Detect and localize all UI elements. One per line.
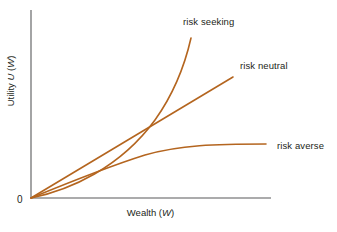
y-axis-title-variable-u: U bbox=[5, 74, 16, 81]
axis-origin-label: 0 bbox=[17, 194, 23, 205]
y-axis-title-variable-w: W bbox=[5, 59, 16, 68]
curve-label-risk-seeking: risk seeking bbox=[183, 16, 234, 27]
risk-averse-curve bbox=[31, 144, 266, 198]
y-axis-title-prefix: Utility bbox=[5, 80, 16, 106]
y-axis-title-suffix: ) bbox=[5, 56, 16, 59]
risk-preference-utility-chart: risk seeking risk neutral risk averse 0 … bbox=[0, 0, 337, 232]
x-axis-title: Wealth (W) bbox=[0, 207, 301, 218]
chart-plot-area bbox=[0, 0, 337, 232]
x-axis-title-suffix: ) bbox=[171, 207, 174, 218]
y-axis-title-rotator: Utility U (W) bbox=[4, 31, 18, 131]
curve-label-risk-neutral: risk neutral bbox=[240, 60, 288, 71]
risk-seeking-curve bbox=[31, 38, 191, 198]
y-axis-title: Utility U (W) bbox=[4, 31, 18, 131]
y-axis-title-mid: ( bbox=[5, 68, 16, 74]
x-axis-title-variable: W bbox=[162, 207, 171, 218]
x-axis-title-prefix: Wealth ( bbox=[127, 207, 162, 218]
curve-label-risk-averse: risk averse bbox=[277, 140, 324, 151]
risk-neutral-line bbox=[31, 77, 233, 198]
